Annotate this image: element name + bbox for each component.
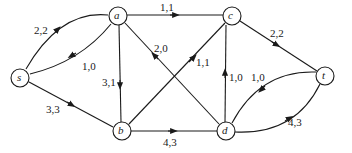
edge-label-b-c: 1,1 xyxy=(196,56,210,68)
edge-d-t xyxy=(235,84,320,132)
node-s: s xyxy=(11,69,29,87)
edge-label-a-b: 3,1 xyxy=(102,76,116,88)
node-c: c xyxy=(223,7,241,25)
edge-label-d-c: 1,0 xyxy=(229,71,243,83)
edge-b-c xyxy=(129,23,225,124)
node-d: d xyxy=(217,122,235,140)
edge-a-b xyxy=(119,25,121,122)
svg-text:s: s xyxy=(17,71,21,83)
node-a: a xyxy=(109,7,127,25)
node-t: t xyxy=(316,67,334,85)
flow-network-diagram: 2,2 1,0 1,1 3,1 2,0 1,1 3,3 4,3 1,0 2,2 … xyxy=(0,0,352,153)
svg-text:a: a xyxy=(114,9,120,21)
edge-label-s-b: 3,3 xyxy=(46,103,60,115)
edge-label-c-t: 2,2 xyxy=(270,27,284,39)
node-b: b xyxy=(113,122,131,140)
edge-label-d-t: 4,3 xyxy=(288,116,302,128)
edge-label-a-c: 1,1 xyxy=(160,1,174,13)
edge-label-a-s: 1,0 xyxy=(82,60,96,72)
svg-text:c: c xyxy=(228,9,233,21)
edge-t-d xyxy=(232,72,316,123)
edge-label-s-a: 2,2 xyxy=(34,24,48,36)
edge-d-a xyxy=(125,23,219,124)
diagram-canvas: 2,2 1,0 1,1 3,1 2,0 1,1 3,3 4,3 1,0 2,2 … xyxy=(0,0,352,153)
svg-text:d: d xyxy=(222,124,228,136)
edge-label-b-d: 4,3 xyxy=(163,136,177,148)
edge-label-t-d: 1,0 xyxy=(251,71,265,83)
svg-text:b: b xyxy=(118,124,124,136)
edge-label-d-a: 2,0 xyxy=(154,42,168,54)
